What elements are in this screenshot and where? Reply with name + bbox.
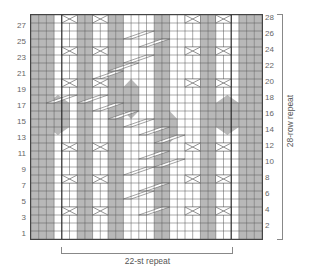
stitch-repeat-label: 22-st repeat <box>100 256 195 266</box>
chart-svg <box>31 15 262 239</box>
row-number-label: 25 <box>12 37 26 46</box>
row-number-label: 11 <box>12 149 26 158</box>
row-number-label: 13 <box>12 133 26 142</box>
row-number-label: 15 <box>12 117 26 126</box>
row-number-label: 19 <box>12 85 26 94</box>
hexagon-motif <box>216 95 239 135</box>
row-number-label: 21 <box>12 69 26 78</box>
row-number-label: 5 <box>12 197 26 206</box>
row-number-label: 9 <box>12 165 26 174</box>
stitch-repeat-bracket <box>61 247 233 254</box>
row-number-label: 23 <box>12 53 26 62</box>
row-number-label: 3 <box>12 213 26 222</box>
row-number-label: 1 <box>12 229 26 238</box>
row-number-label: 27 <box>12 21 26 30</box>
row-number-label: 17 <box>12 101 26 110</box>
row-repeat-label: 28-row repeat <box>285 76 295 166</box>
row-repeat-bracket <box>277 14 283 240</box>
knitting-chart-grid <box>30 14 263 240</box>
row-number-label: 7 <box>12 181 26 190</box>
